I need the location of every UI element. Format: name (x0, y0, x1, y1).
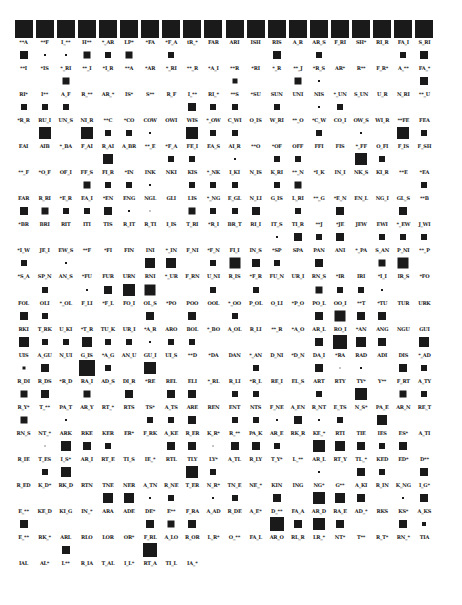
weight-square (421, 391, 427, 397)
grid-cell: D** (414, 437, 435, 463)
weight-square (253, 417, 259, 423)
weight-square (149, 184, 151, 186)
weight-square (104, 286, 112, 294)
weight-square (65, 419, 67, 421)
weight-square (232, 208, 238, 214)
trigram-label: FA_* (410, 65, 439, 71)
weight-square (42, 104, 48, 110)
weight-square (379, 443, 385, 449)
trigram-label: *FO (410, 273, 439, 279)
weight-square (379, 234, 385, 240)
weight-square (337, 287, 343, 293)
weight-square (232, 313, 238, 319)
trigram-label: D** (410, 456, 439, 462)
weight-square (126, 130, 132, 136)
weight-square (189, 156, 195, 162)
weight-square (146, 520, 154, 528)
weight-square (44, 54, 46, 56)
weight-square (379, 469, 385, 475)
weight-square (315, 364, 323, 372)
weight-square (63, 104, 69, 110)
trigram-label: A_TI (410, 430, 439, 436)
weight-square (86, 289, 88, 291)
weight-square (377, 415, 387, 425)
trigram-label: S_RI (410, 39, 439, 45)
weight-square (315, 338, 323, 346)
trigram-label: J_WI (410, 221, 439, 227)
weight-square (20, 207, 28, 215)
weight-square (44, 445, 45, 446)
weight-square (166, 258, 176, 268)
weight-square (210, 260, 216, 266)
weight-square (415, 20, 433, 38)
weight-square (232, 391, 238, 397)
weight-square (378, 338, 386, 346)
weight-square (149, 497, 151, 499)
trigram-label: **_P (410, 247, 439, 253)
weight-square (397, 127, 409, 139)
weight-square (399, 520, 407, 528)
weight-square (331, 20, 349, 38)
weight-square (212, 497, 214, 499)
weight-square (310, 20, 328, 38)
trigram-label: *_AD (410, 352, 439, 358)
trigram-label: A_KS (410, 508, 439, 514)
weight-square (210, 469, 216, 475)
weight-square (41, 390, 49, 398)
weight-square (253, 287, 259, 293)
grid-cell: A_TI (414, 411, 435, 437)
grid-cell: *_AD (414, 333, 435, 359)
weight-square (65, 262, 67, 264)
weight-square (335, 310, 346, 321)
weight-square (420, 51, 428, 59)
weight-square (36, 20, 54, 38)
weight-square (42, 339, 48, 345)
weight-square (294, 520, 302, 528)
weight-square (83, 52, 90, 59)
weight-square (61, 441, 71, 451)
weight-square (421, 130, 427, 136)
weight-square (167, 390, 175, 398)
weight-square (400, 390, 407, 397)
weight-square (399, 364, 407, 372)
weight-square (63, 339, 69, 345)
weight-square (336, 233, 344, 241)
weight-square (313, 440, 325, 452)
weight-square (316, 391, 322, 397)
weight-square (39, 127, 51, 139)
grid-cell: A_KS (414, 489, 435, 515)
trigram-label: *EA (410, 169, 439, 175)
weight-square (316, 130, 322, 136)
weight-square (379, 260, 386, 267)
weight-square (231, 442, 239, 450)
weight-square (295, 156, 301, 162)
weight-square (20, 520, 28, 528)
weight-square (41, 364, 49, 372)
weight-square (167, 442, 175, 450)
weight-square (232, 130, 238, 136)
weight-square (420, 77, 428, 85)
weight-square (57, 20, 75, 38)
weight-square (232, 79, 237, 84)
weight-square (20, 51, 28, 59)
weight-square (352, 20, 370, 38)
weight-square (419, 337, 429, 347)
weight-square (232, 417, 238, 423)
weight-square (318, 106, 320, 108)
weight-square (42, 469, 48, 475)
weight-square (168, 520, 175, 527)
weight-square (20, 312, 28, 320)
weight-square (210, 130, 216, 136)
weight-square (402, 497, 404, 499)
weight-square (229, 258, 240, 269)
trigram-label: URK (410, 300, 439, 306)
weight-square (42, 313, 48, 319)
weight-square (373, 20, 391, 38)
weight-square (210, 182, 216, 188)
weight-square (420, 494, 428, 502)
weight-square (20, 390, 27, 397)
weight-square (357, 494, 365, 502)
weight-square (355, 153, 367, 165)
weight-square (188, 390, 196, 398)
weight-square (400, 234, 406, 240)
